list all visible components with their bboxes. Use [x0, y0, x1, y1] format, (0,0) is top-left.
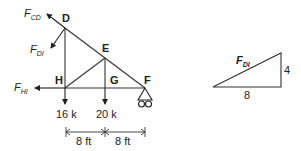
member-he [65, 58, 105, 88]
joint-label-f: F [144, 74, 151, 86]
dimension-label-left: 8 ft [76, 135, 91, 147]
slope-label-rise: 4 [284, 64, 290, 76]
load-label-g: 20 k [96, 108, 117, 120]
force-label-fcd: FCD [24, 7, 41, 21]
joint-label-d: D [62, 12, 70, 24]
force-label-fhi: FHI [14, 81, 28, 95]
truss-members [65, 28, 145, 88]
roller-support-icon [138, 88, 152, 107]
joint-label-h: H [55, 74, 63, 86]
slope-label-fdi: FDI [236, 54, 251, 68]
load-label-h: 16 k [56, 108, 77, 120]
force-label-fdi: FDI [30, 43, 44, 57]
truss-diagram: D E H G F FCD FDI FHI 16 k 20 k 8 ft 8 f… [0, 0, 301, 151]
arrow-fdi-icon [51, 28, 65, 48]
dimension-label-right: 8 ft [115, 135, 130, 147]
force-arrows [35, 14, 105, 104]
joint-label-g: G [110, 74, 119, 86]
joint-label-e: E [102, 42, 109, 54]
slope-triangle [213, 53, 281, 87]
slope-label-run: 8 [244, 89, 250, 101]
